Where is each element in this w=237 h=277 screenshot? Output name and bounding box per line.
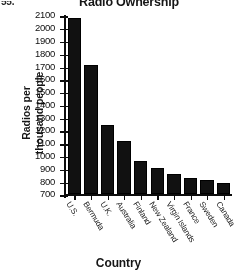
x-axis-category-labels: U.S.BermudaU.K.AustraliaFinlandNew Zeala… <box>64 200 234 254</box>
y-tick: 700 <box>60 195 68 196</box>
y-tick-label: 1700 <box>35 61 55 72</box>
plot-area: 7008009001000110012001300140015001600170… <box>64 17 230 196</box>
y-tick-label: 1900 <box>35 35 55 46</box>
bar <box>101 125 114 194</box>
bar <box>134 161 147 195</box>
y-tick-label: 2000 <box>35 22 55 33</box>
bar <box>151 168 164 194</box>
y-tick-label: 1200 <box>35 124 55 135</box>
bar <box>84 65 97 195</box>
chart-title: Radio Ownership <box>44 0 214 9</box>
y-tick-label: 1300 <box>35 112 55 123</box>
y-tick-label: 1600 <box>35 73 55 84</box>
x-category-label: U.S. <box>65 200 81 218</box>
radio-ownership-figure: 55. Radio Ownership Radios per thousand … <box>0 0 237 277</box>
y-tick-label: 1800 <box>35 48 55 59</box>
bar <box>167 174 180 194</box>
bar <box>184 178 197 194</box>
y-tick-label: 700 <box>40 188 55 199</box>
x-category-label: U.K. <box>98 200 114 218</box>
y-tick-label: 2100 <box>35 9 55 20</box>
y-tick-label: 900 <box>40 163 55 174</box>
y-tick-label: 800 <box>40 176 55 187</box>
y-axis-title-line-1: Radios per <box>20 72 33 155</box>
y-tick-label: 1500 <box>35 86 55 97</box>
y-tick-label: 1100 <box>36 137 55 148</box>
bar <box>200 180 213 195</box>
x-axis-title: Country <box>0 256 237 270</box>
y-tick-label: 1400 <box>35 99 55 110</box>
figure-number: 55. <box>1 0 14 7</box>
y-tick-label: 1000 <box>35 150 55 161</box>
bar <box>117 141 130 195</box>
bar <box>68 18 81 194</box>
bar <box>217 183 230 195</box>
